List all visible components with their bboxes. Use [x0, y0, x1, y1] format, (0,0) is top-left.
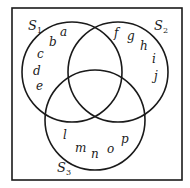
set-label-s2: S2 — [154, 18, 168, 35]
element-label: c — [37, 47, 44, 61]
element-label: g — [127, 29, 135, 43]
element-label: j — [151, 69, 158, 83]
set-label-s1: S1 — [28, 18, 42, 35]
element-label: a — [60, 25, 67, 39]
element-label: o — [107, 142, 114, 156]
element-label: b — [49, 35, 57, 49]
element-label: m — [75, 141, 86, 155]
element-label: p — [121, 132, 129, 146]
element-label: f — [113, 26, 121, 40]
element-label: d — [33, 64, 41, 78]
venn-diagram: S1S2S3abcdefghijlmnop — [0, 0, 190, 188]
element-label: h — [140, 39, 148, 53]
element-label: i — [152, 52, 156, 66]
element-label: l — [63, 128, 67, 142]
element-label: e — [36, 79, 43, 93]
element-label: n — [91, 147, 99, 161]
